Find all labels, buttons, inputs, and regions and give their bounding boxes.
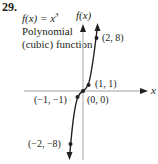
point-label-neg1-neg1: (−1, −1) bbox=[34, 95, 67, 105]
cubic-graph bbox=[0, 0, 158, 164]
point-neg1-neg1 bbox=[76, 95, 80, 99]
curve-top-arrow-icon bbox=[95, 23, 101, 31]
point-label-neg2-neg8: (−2, −8) bbox=[28, 139, 61, 149]
point-neg2-neg8 bbox=[69, 142, 73, 146]
point-1-1 bbox=[87, 83, 91, 87]
x-axis-label: x bbox=[151, 85, 156, 96]
curve-bottom-arrow-icon bbox=[67, 152, 73, 160]
y-axis-label: f(x) bbox=[76, 10, 91, 21]
x-axis-arrow-icon bbox=[140, 88, 148, 94]
point-label-2-8: (2, 8) bbox=[102, 33, 124, 43]
point-label-0-0: (0, 0) bbox=[87, 95, 109, 105]
point-0-0 bbox=[81, 89, 85, 93]
point-label-1-1: (1, 1) bbox=[95, 79, 117, 89]
y-axis-arrow-icon bbox=[80, 24, 86, 32]
point-2-8 bbox=[95, 36, 99, 40]
